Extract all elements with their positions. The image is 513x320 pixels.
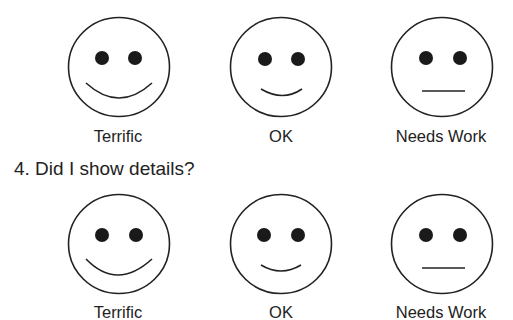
flat-mouth-face-icon (390, 16, 494, 118)
small-smile-face-icon (229, 193, 333, 295)
terrific-face-icon-row1[interactable] (67, 16, 171, 118)
option-label-ok: OK (211, 303, 351, 320)
question-4-text: 4. Did I show details? (14, 158, 195, 180)
big-smile-face-icon (67, 16, 171, 118)
needs-work-face-icon-row1[interactable] (390, 16, 494, 118)
small-smile-face-icon (229, 16, 333, 118)
option-label-terrific: Terrific (48, 303, 188, 320)
option-label-ok: OK (211, 127, 351, 146)
ok-face-icon-row1[interactable] (229, 16, 333, 118)
terrific-face-icon-row2[interactable] (67, 193, 171, 295)
needs-work-face-icon-row2[interactable] (390, 193, 494, 295)
ok-face-icon-row2[interactable] (229, 193, 333, 295)
option-label-needs-work: Needs Work (371, 127, 511, 146)
flat-mouth-face-icon (390, 193, 494, 295)
previous-question-cut-off (0, 0, 513, 6)
big-smile-face-icon (67, 193, 171, 295)
option-label-needs-work: Needs Work (371, 303, 511, 320)
option-label-terrific: Terrific (48, 127, 188, 146)
